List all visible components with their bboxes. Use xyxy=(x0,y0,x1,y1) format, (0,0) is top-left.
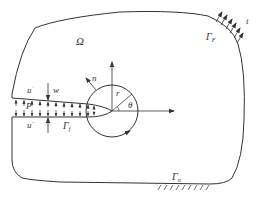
angle-label: θ xyxy=(128,100,133,110)
domain-label: Ω xyxy=(76,35,84,47)
traction-boundary-label: ΓF xyxy=(205,31,216,43)
fracture-diagram: Ω ΓF t Γu Γf u+ u− w P n r θ xyxy=(0,0,257,201)
traction-arrows xyxy=(216,12,243,43)
opening-label: w xyxy=(53,85,59,95)
fixed-boundary-hatch xyxy=(158,185,209,190)
pressure-label: P xyxy=(25,101,32,111)
contour-direction-arrow xyxy=(124,131,130,134)
lower-face-displacement-label: u− xyxy=(27,120,35,130)
displacement-boundary-label: Γu xyxy=(171,171,181,183)
crack-face-boundary-label: Γf xyxy=(62,120,72,132)
normal-label: n xyxy=(92,73,97,83)
crack-lower-face xyxy=(12,111,112,117)
angle-arc xyxy=(117,107,119,112)
radius-label: r xyxy=(116,88,120,98)
upper-face-displacement-label: u+ xyxy=(27,85,35,95)
traction-label: t xyxy=(246,16,249,26)
